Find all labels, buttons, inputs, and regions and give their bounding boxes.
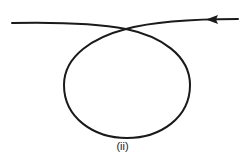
incoming-path: [126, 19, 238, 29]
figure-label: (ii): [0, 140, 245, 152]
loop-diagram: [0, 0, 245, 163]
loop-path: [64, 29, 190, 138]
outgoing-path: [12, 23, 126, 29]
